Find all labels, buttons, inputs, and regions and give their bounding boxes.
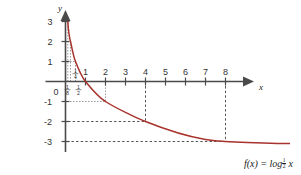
y-axis-arrow — [61, 10, 71, 21]
x-fraction-half-numerator: 1 — [77, 84, 80, 90]
plot-area: x y 3 2 1 0 -1 -2 -3 1 2 3 4 5 6 7 8 1 — [0, 0, 301, 175]
equation-variable: x — [289, 157, 293, 168]
x-fraction-label-half: 1 2 — [76, 84, 82, 97]
log-curve — [68, 22, 290, 144]
function-equation-annotation: f(x) = log12 x — [244, 158, 293, 170]
x-fraction-eighth-numerator: 1 — [66, 84, 69, 90]
x-fraction-quarter-denominator: 4 — [74, 74, 77, 80]
y-tick-label-2: 2 — [47, 37, 52, 47]
y-tick-label-neg2: -2 — [44, 117, 52, 127]
x-tick-label-8: 8 — [223, 67, 228, 77]
x-fraction-half-denominator: 2 — [77, 90, 80, 96]
x-fraction-quarter-numerator: 1 — [74, 68, 77, 74]
y-tick-label-1: 1 — [47, 57, 52, 67]
axes-group — [46, 10, 255, 152]
y-axis-label: y — [57, 3, 62, 13]
x-tick-labels: 1 2 3 4 5 6 7 8 — [83, 67, 228, 77]
x-tick-label-5: 5 — [163, 67, 168, 77]
logarithm-graph-figure: x y 3 2 1 0 -1 -2 -3 1 2 3 4 5 6 7 8 1 — [0, 0, 301, 175]
x-tick-label-3: 3 — [123, 67, 128, 77]
x-tick-label-7: 7 — [203, 67, 208, 77]
x-fraction-eighth-denominator: 8 — [66, 90, 69, 96]
y-tick-label-3: 3 — [47, 17, 52, 27]
equation-prefix: f(x) = log — [244, 157, 282, 168]
x-axis-arrow — [243, 77, 254, 87]
x-fraction-label-quarter: 1 4 — [73, 68, 79, 81]
equation-base-fraction: 12 — [282, 158, 286, 170]
equation-base-denominator: 2 — [282, 164, 286, 170]
x-tick-label-2: 2 — [103, 67, 108, 77]
y-tick-label-neg1: -1 — [44, 97, 52, 107]
x-axis-label: x — [258, 82, 263, 92]
y-tick-label-neg3: -3 — [44, 137, 52, 147]
x-tick-label-4: 4 — [143, 67, 148, 77]
x-tick-label-1: 1 — [83, 67, 88, 77]
y-tick-label-0: 0 — [53, 87, 58, 97]
x-fraction-label-eighth: 1 8 — [65, 84, 71, 97]
x-tick-label-6: 6 — [183, 67, 188, 77]
